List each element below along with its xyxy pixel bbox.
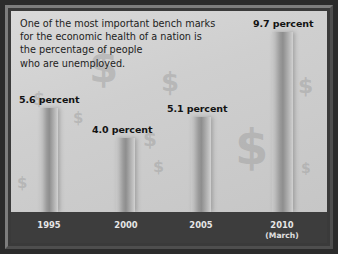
chart-screenshot: $ $ $ $ $ $ $ $ $ $ $ One of the most im…	[0, 0, 338, 254]
dollar-watermark-icon: $	[235, 123, 268, 171]
bar-1995	[40, 108, 58, 212]
value-label-2010: 9.7 percent	[253, 18, 313, 29]
dollar-watermark-icon: $	[161, 69, 179, 95]
dollar-watermark-icon: $	[17, 176, 27, 191]
chart-annotation-text: One of the most important bench marks fo…	[20, 17, 235, 70]
plot-area: $ $ $ $ $ $ $ $ $ $ $ One of the most im…	[11, 11, 327, 212]
bar-2000	[116, 138, 135, 212]
chart-container: $ $ $ $ $ $ $ $ $ $ $ One of the most im…	[11, 11, 327, 243]
value-label-1995: 5.6 percent	[19, 94, 79, 105]
dollar-watermark-icon: $	[73, 111, 83, 126]
x-axis-tick-1995: 1995	[19, 220, 79, 230]
dollar-watermark-icon: $	[153, 159, 164, 175]
x-axis-sublabel-2010: (March)	[252, 231, 312, 240]
value-label-2000: 4.0 percent	[92, 124, 152, 135]
value-label-2005: 5.1 percent	[167, 103, 227, 114]
dollar-watermark-icon: $	[301, 161, 311, 175]
bar-2010	[272, 32, 293, 212]
x-axis-tick-2005: 2005	[171, 220, 231, 230]
x-axis-tick-2010: 2010	[252, 220, 312, 230]
bar-2005	[191, 117, 211, 212]
dollar-watermark-icon: $	[298, 75, 313, 97]
x-axis-band: 1995 2000 2005 2010 (March)	[11, 212, 327, 243]
x-axis-tick-2000: 2000	[96, 220, 156, 230]
